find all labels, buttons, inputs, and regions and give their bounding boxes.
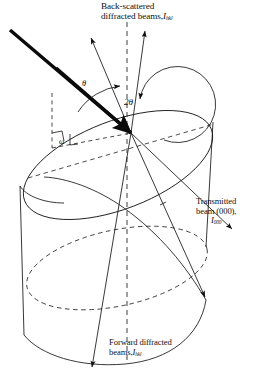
top-ellipse-outline: [9, 88, 227, 242]
diffraction-geometry-figure: Back-scattered diffracted beams,Ihkl Tra…: [0, 0, 254, 380]
forward-line-1: Forward diffracted: [109, 337, 172, 347]
forward-diffracted-beam-right: [131, 133, 205, 297]
inclined-top-face: [9, 88, 227, 242]
label-forward-diffracted-beams: Forward diffracted beams,Ihkl: [109, 338, 172, 358]
cylinder-top-front-lip: [20, 186, 64, 203]
label-backscattered-beams: Back-scattered diffracted beams,Ihkl: [101, 1, 172, 22]
backscattered-beam-left: [91, 38, 131, 133]
transmitted-intensity-subscript: 000: [214, 219, 222, 225]
angle-label-theta: θ: [82, 79, 86, 88]
label-transmitted-beam: Transmitted beam (000), I000: [196, 197, 236, 226]
forward-diffracted-beam-down: [92, 133, 131, 367]
transmitted-line-2: beam (000),: [196, 206, 236, 216]
angle-label-omega: ω: [59, 137, 64, 146]
forward-intensity-subscript: hkl: [135, 351, 141, 357]
specimen-cylinder: [20, 122, 213, 365]
inclined-plane-intersection: [44, 177, 206, 300]
transmitted-and-forward-beams: [92, 133, 232, 367]
diagram-canvas: [0, 0, 254, 380]
hidden-mid-ellipse: [19, 212, 215, 325]
backscattered-line-1: Back-scattered: [101, 1, 154, 11]
forward-line-2: beams,: [109, 347, 133, 357]
two-theta-arc: [140, 67, 216, 143]
backscattered-beams: [91, 31, 145, 133]
incident-beam: [10, 30, 131, 133]
backscattered-beam-right: [131, 31, 145, 133]
angle-label-two-theta: 2θ: [124, 97, 133, 107]
backscattered-line-2: diffracted beams,: [101, 11, 163, 21]
cylinder-left-wall: [20, 186, 24, 335]
transmitted-line-1: Transmitted: [196, 196, 236, 206]
theta-arc: [78, 86, 120, 112]
backscattered-intensity-subscript: hkl: [166, 16, 173, 22]
plane-body-intersection-curve: [44, 177, 206, 300]
